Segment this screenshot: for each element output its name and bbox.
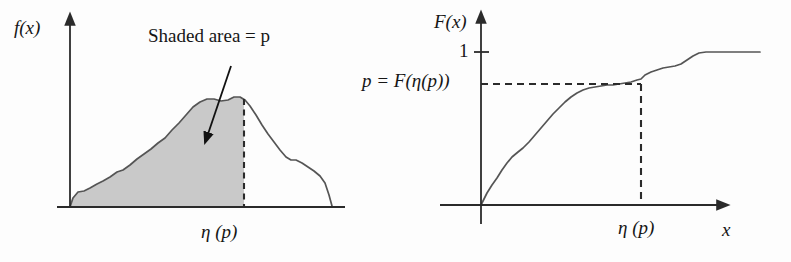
statistics-figure: f(x) Shaded area = p η (p) p = F(η(p)) F…: [0, 0, 791, 262]
shaded-area-region: [70, 97, 244, 207]
cdf-curve: [481, 52, 760, 205]
right-y-axis-label: F(x): [434, 12, 467, 31]
shaded-area-annotation-label: Shaded area = p: [148, 26, 270, 45]
p-level-label: p = F(η(p)): [362, 71, 450, 90]
left-panel-pdf: [57, 24, 345, 207]
right-x-tick-label-eta: η (p): [618, 218, 654, 237]
right-y-tick-label-one: 1: [459, 41, 469, 60]
left-y-axis-label: f(x): [14, 18, 40, 37]
right-x-axis-label: x: [722, 220, 730, 239]
left-x-tick-label-eta: η (p): [201, 222, 237, 241]
figure-canvas: [0, 0, 791, 262]
right-panel-cdf: [440, 22, 760, 224]
